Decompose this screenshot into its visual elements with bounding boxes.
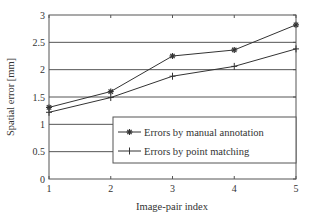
legend: Errors by manual annotation Errors by po… (113, 117, 296, 163)
plus-marker-icon (231, 63, 237, 70)
plus-marker-icon (46, 109, 52, 116)
x-tick-label: 1 (47, 183, 52, 194)
data-series (46, 22, 299, 116)
asterisk-marker-icon (231, 47, 237, 53)
asterisk-marker-icon (127, 129, 133, 135)
plus-marker-icon (170, 73, 176, 80)
line-chart: 00.511.522.53 12345 Image-pair index Spa… (0, 0, 315, 219)
x-tick-label: 4 (232, 183, 237, 194)
y-tick-label: 0 (40, 174, 45, 185)
y-tick-label: 3 (40, 10, 45, 21)
y-tick-label: 2 (40, 64, 45, 75)
asterisk-marker-icon (108, 89, 114, 95)
y-tick-label: 2.5 (33, 37, 46, 48)
plus-marker-icon (108, 94, 114, 101)
x-tick-label: 5 (294, 183, 299, 194)
x-tick-label: 2 (108, 183, 113, 194)
y-tick-label: 1 (40, 119, 45, 130)
y-axis-label: Spatial error [mm] (5, 58, 16, 136)
y-tick-label: 1.5 (33, 92, 46, 103)
asterisk-marker-icon (170, 53, 176, 59)
plus-marker-icon (293, 45, 299, 52)
legend-label-manual: Errors by manual annotation (144, 127, 265, 138)
legend-label-matching: Errors by point matching (144, 146, 250, 157)
x-tick-label: 3 (170, 183, 175, 194)
x-axis-label: Image-pair index (136, 201, 209, 212)
asterisk-marker-icon (293, 22, 299, 28)
y-tick-label: 0.5 (33, 146, 46, 157)
